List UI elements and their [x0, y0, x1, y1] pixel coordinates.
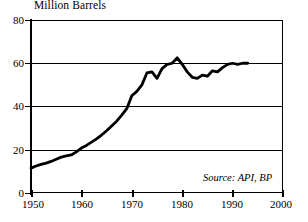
series-layer [0, 0, 308, 222]
line-series-world-oil-production [31, 58, 248, 168]
chart-container: Million Barrels 80 60 40 20 0 1950 1960 … [0, 0, 308, 222]
